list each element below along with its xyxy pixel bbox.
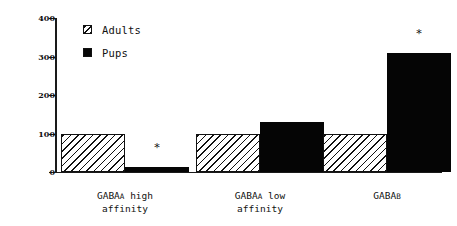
category-label-line2: affinity (97, 203, 153, 215)
bar-chart: 400 300 200 100 0 ** Adults Pups (0, 0, 457, 226)
bar-pups-2 (260, 122, 324, 172)
category-label-3: GABAB (373, 190, 400, 203)
legend-label-adults: Adults (102, 24, 141, 36)
legend-item-adults: Adults (83, 21, 141, 38)
category-label-line1: GABAB (373, 190, 400, 203)
category-label-2: GABAA lowaffinity (235, 190, 285, 215)
category-label-1: GABAA highaffinity (97, 190, 153, 215)
significance-star-3: * (416, 28, 422, 39)
receptor-subtype-subscript: B (396, 192, 401, 201)
y-tick-400: 400 (0, 18, 55, 19)
legend: Adults Pups (83, 21, 141, 67)
y-tick-0: 0 (0, 172, 55, 173)
bar-pups-1 (125, 167, 189, 172)
category-label-line1: GABAA high (97, 190, 153, 203)
y-tick-200: 200 (0, 95, 55, 96)
y-tick-300: 300 (0, 57, 55, 58)
bar-adults-2 (196, 134, 260, 173)
y-tick-label-300: 300 (27, 53, 55, 61)
solid-black-square-icon (83, 48, 92, 57)
bar-adults-1 (61, 134, 125, 173)
hatched-square-icon (83, 25, 92, 34)
legend-item-pups: Pups (83, 44, 141, 61)
legend-label-pups: Pups (102, 47, 128, 59)
y-tick-label-200: 200 (27, 91, 55, 99)
y-tick-label-400: 400 (27, 14, 55, 22)
receptor-subtype-subscript: A (258, 192, 263, 201)
significance-star-1: * (154, 142, 160, 153)
receptor-subtype-subscript: A (120, 192, 125, 201)
y-tick-label-100: 100 (27, 130, 55, 138)
y-tick-label-0: 0 (27, 168, 55, 176)
y-tick-100: 100 (0, 134, 55, 135)
bar-adults-3 (323, 134, 387, 173)
bar-pups-3 (387, 53, 451, 172)
category-label-line1: GABAA low (235, 190, 285, 203)
category-label-line2: affinity (235, 203, 285, 215)
